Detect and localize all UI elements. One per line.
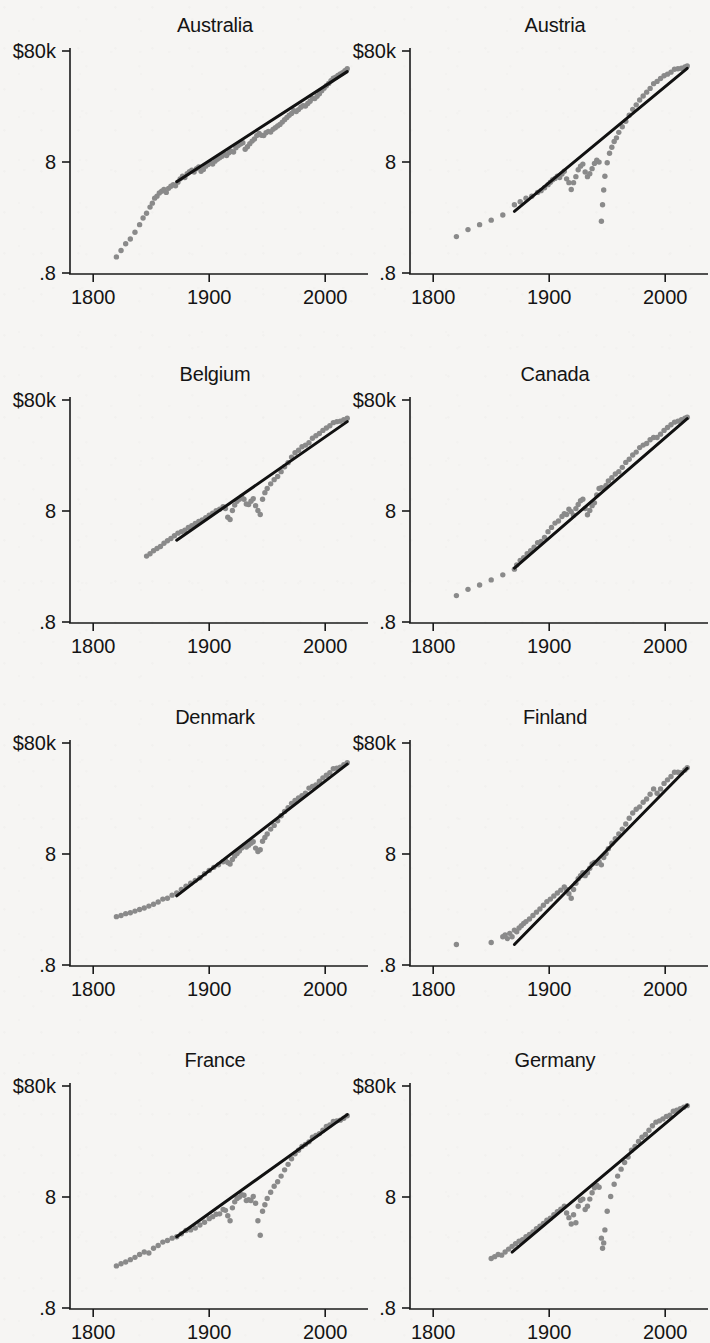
fit-line [514, 68, 687, 211]
fit-line [514, 768, 687, 944]
data-point-group [144, 416, 350, 559]
panel-title: Belgium [70, 363, 360, 386]
panel-title: Finland [410, 706, 700, 729]
panel-plot [342, 740, 710, 1008]
panel-title: France [70, 1049, 360, 1072]
panel-finland: Finland$80k8.8180019002000 [342, 706, 710, 1004]
data-point-group [454, 415, 690, 599]
panel-canada: Canada$80k8.8180019002000 [342, 363, 710, 661]
panel-plot [2, 397, 370, 665]
panel-plot [342, 48, 710, 316]
panel-australia: Australia$80k8.8180019002000 [2, 14, 370, 312]
panel-germany: Germany$80k8.8180019002000 [342, 1049, 710, 1343]
panel-denmark: Denmark$80k8.8180019002000 [2, 706, 370, 1004]
fit-line [177, 1115, 348, 1237]
data-point-group [114, 760, 350, 919]
panel-plot [2, 1083, 370, 1343]
panel-plot [342, 397, 710, 665]
fit-line [177, 422, 348, 541]
fit-line [512, 1105, 687, 1252]
panel-title: Canada [410, 363, 700, 386]
panel-austria: Austria$80k8.8180019002000 [342, 14, 710, 312]
panel-title: Denmark [70, 706, 360, 729]
panel-plot [2, 48, 370, 316]
panel-title: Germany [410, 1049, 700, 1072]
data-point-group [454, 765, 690, 947]
panel-plot [342, 1083, 710, 1343]
panel-belgium: Belgium$80k8.8180019002000 [2, 363, 370, 661]
panel-title: Australia [70, 14, 360, 37]
fit-line [177, 72, 348, 182]
fit-line [514, 419, 687, 568]
panel-plot [2, 740, 370, 1008]
panel-title: Austria [410, 14, 700, 37]
data-point-group [454, 63, 690, 239]
fit-line [177, 764, 348, 896]
panel-france: France$80k8.8180019002000 [2, 1049, 370, 1343]
data-point-group [114, 66, 350, 260]
